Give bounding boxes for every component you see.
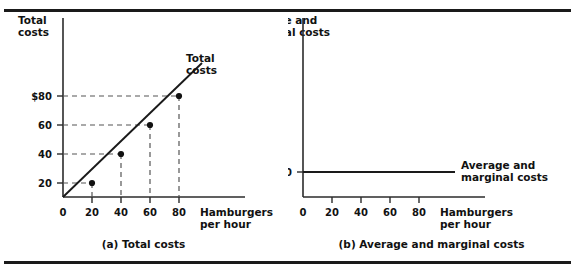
panel-total-costs: Total costs 20 40 60 $80 0 20 40 60 80 (0, 14, 287, 254)
x-tick-label-60: 60 (143, 207, 157, 218)
x-tick-label-80: 80 (172, 207, 186, 218)
chart-total-costs: Total costs 20 40 60 $80 0 20 40 60 80 (0, 14, 287, 244)
y-axis-title-line2: costs (18, 26, 49, 38)
data-point-20 (89, 180, 95, 186)
x-tick-label-20: 20 (325, 207, 339, 218)
x-axis-title-line1: Hamburgers (440, 206, 513, 218)
x-axis-title-line2: per hour (200, 218, 252, 230)
curve-label-line2: marginal costs (461, 171, 548, 183)
figure-frame: Total costs 20 40 60 $80 0 20 40 60 80 (0, 0, 575, 277)
top-divider-rule (4, 9, 571, 12)
x-tick-label-40: 40 (114, 207, 128, 218)
x-axis-title-line1: Hamburgers (200, 206, 273, 218)
y-axis-title-line1: Total (18, 14, 47, 26)
y-tick-label-1-00: $1.00 (288, 167, 292, 178)
chart-average-marginal-costs: Average and marginal costs $1.00 0 20 40… (288, 14, 575, 244)
y-axis-title-line2: marginal costs (288, 26, 330, 38)
x-tick-label-20: 20 (85, 207, 99, 218)
panel-a-caption: (a) Total costs (0, 238, 287, 250)
data-point-40 (118, 151, 124, 157)
x-tick-label-60: 60 (383, 207, 397, 218)
curve-label-line1: Total (186, 52, 215, 64)
x-tick-label-80: 80 (412, 207, 426, 218)
curve-label-line1: Average and (461, 159, 535, 171)
x-tick-label-0: 0 (60, 207, 67, 218)
y-tick-label-80: $80 (31, 91, 52, 102)
y-tick-label-40: 40 (38, 149, 52, 160)
panel-b-caption: (b) Average and marginal costs (288, 238, 575, 250)
panel-average-marginal-costs: Average and marginal costs $1.00 0 20 40… (288, 14, 575, 254)
curve-label-line2: costs (186, 64, 217, 76)
x-tick-label-40: 40 (354, 207, 368, 218)
total-costs-curve (63, 63, 202, 197)
bottom-divider-rule (4, 261, 571, 264)
y-tick-label-60: 60 (38, 120, 52, 131)
x-tick-label-0: 0 (300, 207, 307, 218)
y-tick-label-20: 20 (38, 178, 52, 189)
data-point-60 (147, 122, 153, 128)
data-point-80 (176, 93, 182, 99)
x-axis-title-line2: per hour (440, 218, 492, 230)
